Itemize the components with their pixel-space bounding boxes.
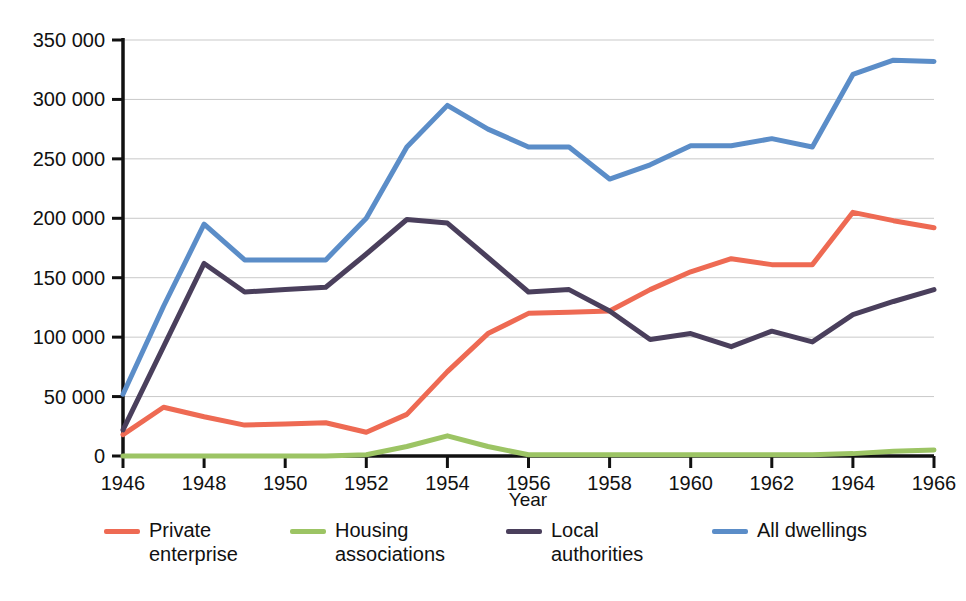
- x-axis-tick-label: 1962: [750, 472, 795, 494]
- x-axis-tick-label: 1966: [912, 472, 957, 494]
- x-axis-tick-label: 1952: [344, 472, 389, 494]
- series-line-housing-associations: [123, 436, 934, 456]
- x-axis-tick-label: 1946: [101, 472, 146, 494]
- legend-item-housing-associations[interactable]: Housing associations: [290, 518, 470, 566]
- y-axis-tick-label: 0: [94, 445, 105, 467]
- line-chart: 050 000100 000150 000200 000250 000300 0…: [0, 0, 966, 601]
- y-axis-tick-label: 100 000: [33, 326, 105, 348]
- x-axis-tick-label: 1954: [425, 472, 470, 494]
- x-axis-tick-label: 1964: [831, 472, 876, 494]
- legend-swatch-icon: [290, 529, 326, 534]
- legend-label: All dwellings: [757, 518, 867, 542]
- legend-swatch-icon: [104, 529, 140, 534]
- x-axis-title: Year: [509, 489, 548, 510]
- legend-label: Local authorities: [551, 518, 643, 566]
- y-axis-tick-label: 150 000: [33, 267, 105, 289]
- y-axis-tick-label: 350 000: [33, 29, 105, 51]
- legend-item-local-authorities[interactable]: Local authorities: [506, 518, 676, 566]
- y-axis-tick-label: 300 000: [33, 88, 105, 110]
- x-axis-tick-label: 1948: [182, 472, 227, 494]
- x-axis-tick-label: 1958: [587, 472, 632, 494]
- x-axis-tick-label: 1960: [668, 472, 713, 494]
- y-axis-tick-label: 250 000: [33, 148, 105, 170]
- legend-swatch-icon: [712, 529, 748, 534]
- legend-item-all-dwellings[interactable]: All dwellings: [712, 518, 912, 542]
- series-line-local-authorities: [123, 219, 934, 429]
- legend-label: Housing associations: [335, 518, 445, 566]
- y-axis-tick-labels: 050 000100 000150 000200 000250 000300 0…: [33, 29, 105, 467]
- chart-plot-area: 050 000100 000150 000200 000250 000300 0…: [0, 0, 966, 601]
- y-axis-tick-label: 50 000: [44, 386, 105, 408]
- legend-item-private-enterprise[interactable]: Private enterprise: [104, 518, 254, 566]
- legend-swatch-icon: [506, 529, 542, 534]
- legend-label: Private enterprise: [149, 518, 238, 566]
- y-axis-tick-label: 200 000: [33, 207, 105, 229]
- x-axis-tick-label: 1950: [263, 472, 308, 494]
- chart-legend: Private enterpriseHousing associationsLo…: [0, 518, 966, 601]
- series-line-private-enterprise: [123, 212, 934, 434]
